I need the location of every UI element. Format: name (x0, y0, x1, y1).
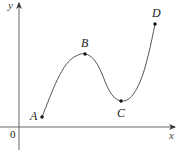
point-d (153, 22, 156, 25)
curve-diagram: y x 0 A B C D (0, 0, 178, 162)
origin-label: 0 (10, 128, 16, 140)
x-axis-label: x (168, 129, 174, 141)
point-b (83, 52, 86, 55)
y-axis-label: y (7, 0, 13, 11)
point-c (119, 99, 122, 102)
function-curve (42, 24, 155, 117)
point-d-label: D (151, 6, 161, 20)
point-a-label: A (29, 109, 38, 123)
point-a (40, 115, 43, 118)
point-b-label: B (81, 36, 89, 50)
point-c-label: C (117, 106, 126, 120)
